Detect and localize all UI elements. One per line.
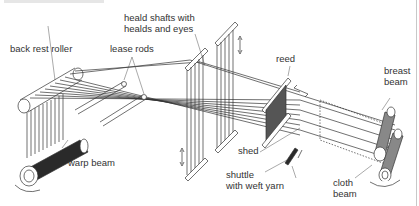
back-rest-roller [18, 68, 83, 113]
label-shuttle: shuttle with weft yarn [226, 170, 284, 191]
label-shuttle-line2: with weft yarn [226, 181, 284, 192]
label-cloth-beam-line2: beam [333, 189, 357, 200]
label-breast-beam-line2: beam [384, 77, 410, 88]
shuttle [285, 148, 302, 165]
label-cloth-beam: cloth beam [333, 178, 357, 199]
label-heald-shafts-line1: heald shafts with [124, 13, 195, 24]
label-warp-beam: warp beam [68, 158, 115, 169]
loom-illustration [0, 0, 419, 206]
label-reed: reed [276, 54, 295, 65]
label-breast-beam: breast beam [384, 66, 410, 87]
label-heald-shafts-line2: healds and eyes [124, 24, 195, 35]
reed [262, 78, 308, 148]
label-shuttle-line1: shuttle [226, 170, 284, 181]
label-heald-shafts: heald shafts with healds and eyes [124, 13, 195, 34]
label-cloth-beam-line1: cloth [333, 178, 357, 189]
label-back-rest-roller: back rest roller [10, 44, 72, 55]
warp-drops [27, 94, 63, 158]
label-shed: shed [238, 146, 259, 157]
label-lease-rods: lease rods [110, 44, 154, 55]
label-breast-beam-line1: breast [384, 66, 410, 77]
